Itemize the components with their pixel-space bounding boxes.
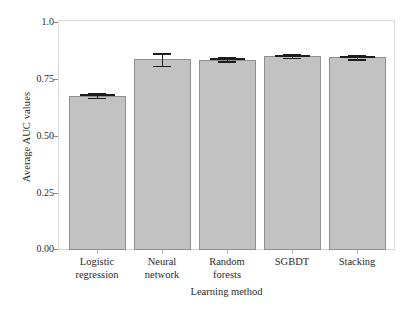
errorbar-cap-top-random-forests [218, 57, 236, 59]
x-tick-mark-random-forests [227, 250, 228, 254]
y-tick-label-0-25: 0.25 [14, 188, 54, 198]
errorbar-cap-bottom-neural-network [153, 66, 171, 68]
errorbar-cap-bottom-sgbdt [283, 58, 301, 60]
x-tick-mark-sgbdt [292, 250, 293, 254]
y-tick-label-0-50: 0.50 [14, 131, 54, 141]
errorbar-cap-top-neural-network [153, 53, 171, 55]
bar-sgbdt [264, 56, 321, 250]
y-axis-tick-labels: 1.0 0.75 0.50 0.25 0.00 [10, 0, 54, 318]
errorbar-line-neural-network [162, 53, 163, 66]
bar-logistic-regression [69, 96, 126, 250]
errorbar-cap-top-logistic-regression [88, 93, 106, 95]
errorbar-cap-bottom-random-forests [218, 61, 236, 63]
errorbar-cap-bottom-stacking [348, 59, 366, 61]
x-axis-title: Learning method [58, 286, 395, 298]
bar-chart-figure: Average AUC values 1.0 0.75 0.50 0.25 0.… [0, 0, 415, 318]
bar-neural-network [134, 59, 191, 250]
x-tick-label-line1: Stacking [317, 256, 397, 269]
errorbar-cap-top-stacking [348, 55, 366, 57]
x-tick-label-stacking: Stacking [317, 256, 397, 269]
errorbar-cap-bottom-logistic-regression [88, 98, 106, 100]
bar-random-forests [199, 60, 256, 251]
y-tick-label-1-0: 1.0 [14, 17, 54, 27]
x-tick-mark-logistic-regression [97, 250, 98, 254]
bar-stacking [329, 57, 386, 250]
x-tick-label-line2: forests [187, 269, 267, 282]
x-tick-mark-stacking [357, 250, 358, 254]
y-tick-label-0-00: 0.00 [14, 244, 54, 254]
errorbar-cap-top-sgbdt [283, 54, 301, 56]
y-tick-label-0-75: 0.75 [14, 74, 54, 84]
x-tick-mark-neural-network [162, 250, 163, 254]
